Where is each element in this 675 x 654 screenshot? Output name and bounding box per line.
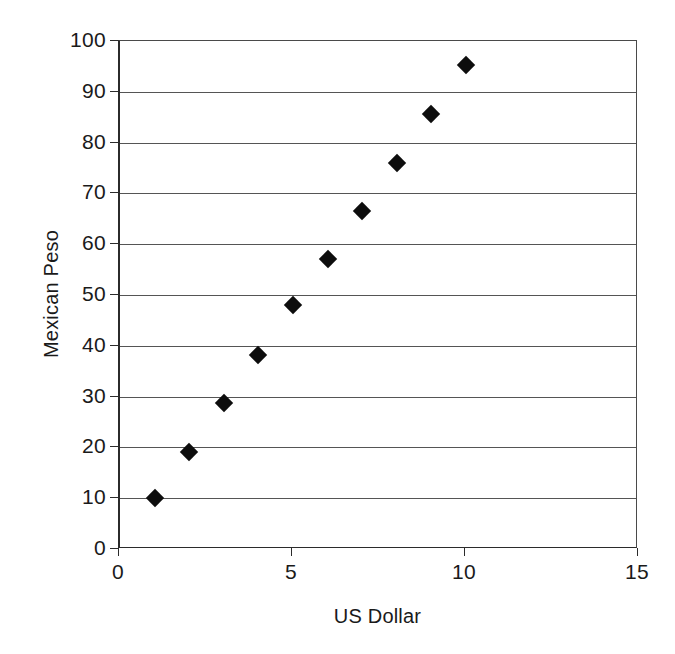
gridline [120,447,636,448]
gridline [120,193,636,194]
plot-area [118,40,637,548]
x-axis-title: US Dollar [118,605,637,628]
data-point [284,296,302,314]
data-point [249,346,267,364]
y-axis-tick [110,497,118,498]
x-axis-tick-label: 10 [434,561,494,583]
x-axis-tick-label: 5 [261,561,321,583]
data-point [353,202,371,220]
x-axis-tick-label: 15 [607,561,667,583]
gridline [120,295,636,296]
y-axis-tick [110,446,118,447]
y-axis-tick [110,243,118,244]
x-axis-tick [118,548,119,556]
x-axis-tick [464,548,465,556]
data-point [145,489,163,507]
y-axis-tick [110,91,118,92]
data-point [318,250,336,268]
gridline [120,397,636,398]
gridline [120,92,636,93]
x-axis-tick-label: 0 [88,561,148,583]
data-point [422,104,440,122]
data-point [180,443,198,461]
y-axis-tick [110,548,118,549]
y-axis-tick [110,142,118,143]
y-axis-tick [110,40,118,41]
y-axis-tick [110,192,118,193]
scatter-chart: 0102030405060708090100 051015 US Dollar … [0,0,675,654]
x-axis-tick [637,548,638,556]
gridline [120,143,636,144]
data-point [388,154,406,172]
y-axis-tick [110,396,118,397]
y-axis-tick [110,345,118,346]
gridline [120,346,636,347]
gridline [120,244,636,245]
gridline [120,498,636,499]
y-axis-title: Mexican Peso [40,40,76,548]
data-point [457,56,475,74]
x-axis-tick [291,548,292,556]
y-axis-tick [110,294,118,295]
